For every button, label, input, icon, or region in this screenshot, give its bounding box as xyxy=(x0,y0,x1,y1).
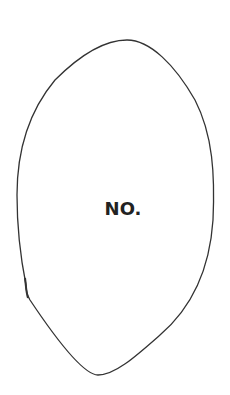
figure-label: NO. xyxy=(8,198,230,219)
